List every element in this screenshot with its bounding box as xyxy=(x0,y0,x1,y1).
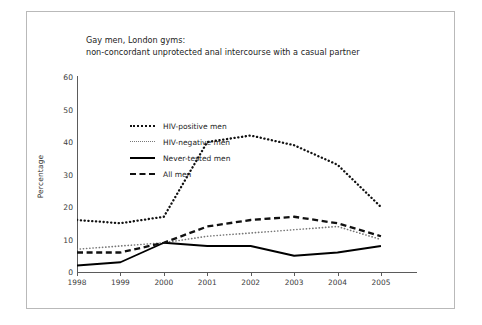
legend-swatch-icon xyxy=(130,137,155,147)
chart-title-line-1: Gay men, London gyms: xyxy=(86,35,416,47)
y-axis-tick-label: 30 xyxy=(51,170,73,179)
legend-item[interactable]: HIV-positive men xyxy=(130,118,230,134)
legend-item-label: HIV-positive men xyxy=(163,122,227,131)
x-axis-tick-mark xyxy=(294,273,295,276)
legend-swatch-icon xyxy=(130,153,155,163)
y-axis-tick-label: 40 xyxy=(51,138,73,147)
x-axis-tick-mark xyxy=(77,273,78,276)
legend-item-label: HIV-negative men xyxy=(163,138,230,147)
y-axis-tick-label: 60 xyxy=(51,73,73,82)
y-axis-tick-label: 10 xyxy=(51,235,73,244)
plot-area xyxy=(77,77,407,272)
legend-item-label: Never-tested men xyxy=(163,154,230,163)
chart-title: Gay men, London gyms: non-concordant unp… xyxy=(86,35,416,58)
x-axis-tick-label: 2003 xyxy=(285,278,304,287)
series-container xyxy=(77,77,407,272)
legend-swatch-icon xyxy=(130,121,155,131)
x-axis-tick-mark xyxy=(164,273,165,276)
legend-item[interactable]: All men xyxy=(130,166,230,182)
x-axis-tick-mark xyxy=(251,273,252,276)
x-axis-tick-mark xyxy=(207,273,208,276)
legend-item[interactable]: HIV-negative men xyxy=(130,134,230,150)
legend-item-label: All men xyxy=(163,170,191,179)
x-axis-tick-mark xyxy=(381,273,382,276)
x-axis-tick-mark xyxy=(338,273,339,276)
x-axis-tick-mark xyxy=(120,273,121,276)
legend-swatch-icon xyxy=(130,169,155,179)
chart-title-line-2: non-concordant unprotected anal intercou… xyxy=(86,47,416,59)
x-axis-tick-label: 2005 xyxy=(372,278,391,287)
y-axis-tick-label: 50 xyxy=(51,105,73,114)
chart-legend: HIV-positive menHIV-negative menNever-te… xyxy=(130,118,230,182)
legend-item[interactable]: Never-tested men xyxy=(130,150,230,166)
x-axis-line xyxy=(77,272,417,273)
y-axis-tick-label: 20 xyxy=(51,203,73,212)
x-axis-tick-label: 1999 xyxy=(111,278,130,287)
x-axis-tick-label: 2004 xyxy=(328,278,347,287)
x-axis-tick-label: 2001 xyxy=(198,278,217,287)
y-axis-title: Percentage xyxy=(36,155,45,199)
x-axis-tick-label: 2002 xyxy=(241,278,260,287)
chart-figure-frame: Gay men, London gyms: non-concordant unp… xyxy=(26,11,455,309)
x-axis-tick-label: 1998 xyxy=(68,278,87,287)
x-axis-tick-label: 2000 xyxy=(154,278,173,287)
y-axis-tick-label: 0 xyxy=(51,268,73,277)
